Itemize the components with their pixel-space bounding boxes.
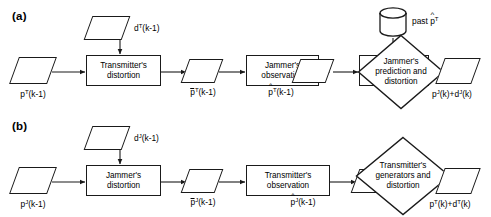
panel-a-output-a-rest: (k) [440, 89, 450, 99]
panel-b-input-rest: (k-1) [28, 199, 45, 209]
figure-canvas: (a) dT(k-1) pT(k-1) Transmitter's distor… [0, 0, 491, 217]
panel-a-store-sup: T [435, 16, 439, 22]
panel-b-step-transmitters-observation[interactable]: Transmitter's observation [246, 165, 330, 196]
panel-a-disturbance-rest: (k-1) [142, 23, 159, 33]
panel-b-input-shape [9, 167, 57, 194]
panel-b-output-shape [435, 168, 480, 194]
panel-a-step1-line1: Transmitter's [100, 61, 147, 71]
panel-a-signal2-rest: (k-1) [277, 87, 294, 97]
panel-b-signal2-base: p [291, 198, 296, 206]
panel-a-signal2-shape [292, 59, 335, 83]
panel-b-disturbance-label: dJ(k-1) [134, 134, 159, 142]
panel-a-signal1-shape [181, 59, 224, 83]
panel-a-input-label: pT(k-1) [20, 90, 46, 98]
panel-a-signal1-label: pT(k-1) [190, 88, 216, 96]
panel-a-store-prefix: past [412, 16, 430, 26]
panel-a-decision-line1: Jammer's [375, 57, 426, 67]
panel-b-signal1-shape [181, 169, 224, 193]
panel-a-output-label: pJ(k)+dJ(k) [432, 90, 472, 98]
panel-a-signal1-base: p [190, 88, 195, 96]
panel-a-step-transmitters-distortion[interactable]: Transmitter's distortion [86, 55, 161, 86]
panel-a-decision-line2: prediction and [375, 67, 426, 77]
panel-a-store-label: past pT [412, 17, 439, 25]
panel-b-signal1-rest: (k-1) [198, 197, 215, 207]
panel-a-output-shape [435, 58, 480, 84]
panel-b-step1-line2: distortion [106, 181, 141, 191]
panel-b-step1-line1: Jammer's [106, 171, 141, 181]
panel-a-input-shape [9, 57, 57, 84]
panel-b-input-label: pJ(k-1) [21, 200, 46, 208]
panel-b-decision-line3: distortion [375, 181, 430, 191]
panel-b-decision-line1: Transmitter's [375, 161, 430, 171]
panel-b-signal2-rest: (k-1) [298, 197, 315, 207]
panel-b-signal1-label: pJ(k-1) [191, 198, 216, 206]
panel-a-label: (a) [12, 10, 27, 22]
panel-a-signal2-label: pT(k-1) [268, 88, 294, 96]
panel-b-disturbance-shape [84, 126, 131, 150]
panel-b-step2-line2: observation [265, 181, 312, 191]
panel-b-disturbance-rest: (k-1) [142, 133, 159, 143]
panel-a-signal1-rest: (k-1) [199, 87, 216, 97]
panel-b-step-jammers-distortion[interactable]: Jammer's distortion [86, 165, 161, 196]
panel-a-disturbance-label: dT(k-1) [134, 24, 160, 32]
panel-b-output-b-rest: (k) [461, 199, 471, 209]
panel-a-output-b-rest: (k) [462, 89, 472, 99]
panel-a-store-symbol: p [430, 17, 435, 25]
panel-b-decision-line2: generators and [375, 171, 430, 181]
panel-a-signal2-base: p [268, 88, 273, 96]
panel-b-step2-line1: Transmitter's [265, 171, 312, 181]
panel-b-label: (b) [12, 120, 27, 132]
panel-a-step1-line2: distortion [100, 71, 147, 81]
panel-b-signal1-base: p [191, 198, 196, 206]
panel-b-signal2-label: pJ(k-1) [291, 198, 316, 206]
panel-a-disturbance-shape [84, 16, 131, 40]
panel-b-output-a-rest: (k) [438, 199, 448, 209]
panel-a-decision-line3: distortion [375, 77, 426, 87]
panel-a-input-rest: (k-1) [29, 89, 46, 99]
panel-b-output-label: pT(k)+dT(k) [429, 200, 470, 208]
